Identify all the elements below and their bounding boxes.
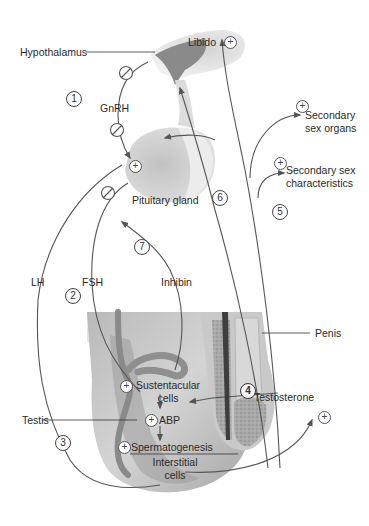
spermatogenesis-label: Spermatogenesis: [131, 441, 213, 453]
step-6-badge: 6: [212, 190, 228, 206]
stimulate-icon-pituitary: +: [129, 160, 142, 173]
inhibit-symbols: [102, 67, 133, 200]
libido-label: Libido: [188, 36, 216, 48]
interstitial-cells-label-l1: Interstitial: [140, 456, 210, 468]
sustentacular-cells-label-l2: cells: [133, 392, 203, 404]
step-3-badge: 3: [55, 435, 71, 451]
stimulate-icon-spermatogenesis: +: [118, 441, 131, 454]
sustentacular-cells-label-l1: Sustentacular: [133, 379, 203, 391]
stimulate-icon-abp: +: [145, 414, 158, 427]
stimulate-icon-sustentacular: +: [120, 380, 133, 393]
inhibit-icon-fsh: [102, 187, 115, 200]
secondary-sex-characteristics-label-l1: Secondary sex: [286, 164, 355, 176]
step-2-badge: 2: [65, 288, 81, 304]
interstitial-cells-label-l2: cells: [140, 469, 210, 481]
inhibit-icon-hypothalamus: [120, 67, 133, 80]
lh-label: LH: [31, 276, 44, 288]
fsh-label: FSH: [82, 276, 103, 288]
secondary-sex-organs-label-l2: sex organs: [305, 122, 356, 134]
penis-label: Penis: [315, 327, 341, 339]
pituitary-gland-label: Pituitary gland: [132, 194, 199, 206]
stimulate-icon-libido: +: [224, 36, 237, 49]
gnrh-label: GnRH: [100, 102, 129, 114]
secondary-sex-characteristics-label-l2: characteristics: [286, 177, 353, 189]
hypothalamus-label: Hypothalamus: [20, 46, 87, 58]
step-5-badge: 5: [272, 204, 288, 220]
inhibin-label: Inhibin: [161, 276, 192, 288]
secondary-sex-organs-label-l1: Secondary: [305, 109, 355, 121]
stimulate-icon-testosterone: +: [318, 411, 331, 424]
abp-label: ABP: [159, 414, 180, 426]
step-1-badge: 1: [66, 91, 82, 107]
testis-label: Testis: [22, 414, 49, 426]
testosterone-label: Testosterone: [254, 391, 314, 403]
step-7-badge: 7: [134, 239, 150, 255]
inhibit-icon-gnrh: [111, 124, 124, 137]
